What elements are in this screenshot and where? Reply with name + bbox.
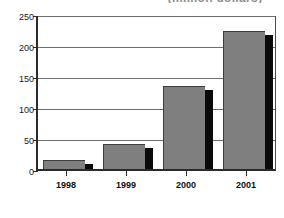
bar-1999 <box>103 144 153 169</box>
bar-body-1998 <box>43 160 85 169</box>
bar-shadow-2001 <box>265 35 273 169</box>
gridline-250 <box>38 16 275 17</box>
y-tick-label-0: 0 <box>0 167 34 177</box>
bar-body-2001 <box>223 31 265 169</box>
bar-shadow-1998 <box>85 164 93 169</box>
bar-1998 <box>43 160 93 169</box>
bar-shadow-2000 <box>205 90 213 169</box>
x-tick-mark-1998 <box>66 171 67 176</box>
bar-body-1999 <box>103 144 145 169</box>
bar-2000 <box>163 86 213 169</box>
x-tick-mark-2000 <box>186 171 187 176</box>
y-tick-label-200: 200 <box>0 43 34 53</box>
x-tick-mark-1999 <box>126 171 127 176</box>
y-tick-label-250: 250 <box>0 12 34 22</box>
plot-area: 050100150200250 <box>36 16 276 171</box>
bar-chart-figure: (million dollars) 050100150200250 199819… <box>0 0 284 218</box>
bar-body-2000 <box>163 86 205 169</box>
chart-title: (million dollars) <box>146 0 284 3</box>
x-tick-label-2000: 2000 <box>156 180 216 190</box>
y-tick-label-50: 50 <box>0 136 34 146</box>
x-tick-label-1998: 1998 <box>36 180 96 190</box>
x-tick-label-2001: 2001 <box>216 180 276 190</box>
x-tick-mark-2001 <box>246 171 247 176</box>
x-axis: 1998199920002001 <box>36 171 276 201</box>
y-tick-label-100: 100 <box>0 105 34 115</box>
bar-shadow-1999 <box>145 148 153 169</box>
bar-2001 <box>223 31 273 169</box>
x-tick-label-1999: 1999 <box>96 180 156 190</box>
y-tick-label-150: 150 <box>0 74 34 84</box>
